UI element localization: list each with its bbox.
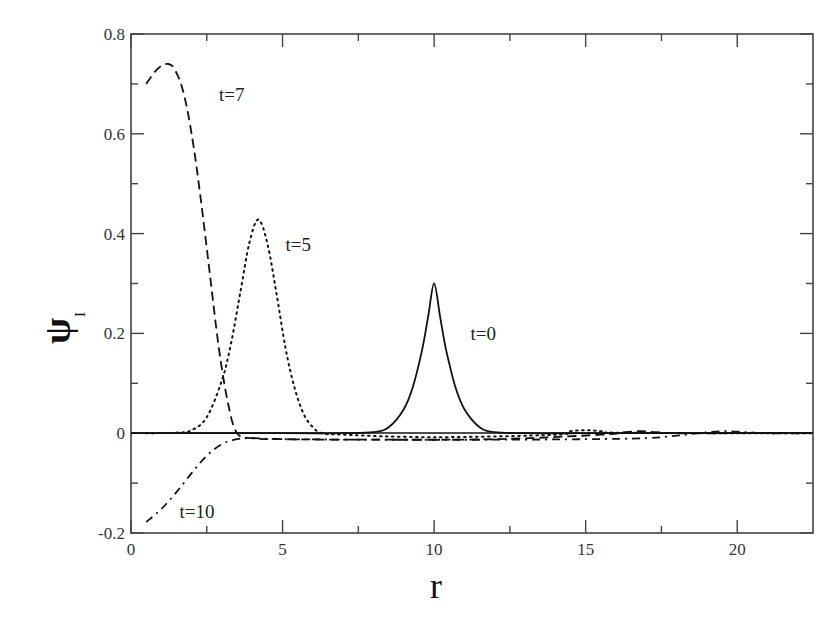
curve-label-t-10: t=10 — [179, 501, 214, 522]
axis-ticks — [131, 34, 813, 533]
axis-tick-labels: 05101520-0.200.20.40.60.8 — [98, 25, 746, 559]
y-tick-label: 0.6 — [104, 125, 125, 144]
curve-label-t-0: t=0 — [470, 323, 496, 344]
y-axis-title: ψ — [36, 318, 78, 344]
y-tick-label: 0.2 — [104, 324, 125, 343]
chart: 05101520-0.200.20.40.60.8 t=0t=5t=7t=10 … — [0, 0, 840, 628]
x-tick-label: 15 — [577, 540, 594, 559]
x-tick-label: 0 — [127, 540, 136, 559]
x-tick-label: 20 — [729, 540, 746, 559]
x-tick-label: 5 — [278, 540, 287, 559]
y-tick-label: 0.4 — [104, 225, 126, 244]
curve-label-t-5: t=5 — [286, 234, 312, 255]
curve-t-10 — [146, 431, 813, 522]
curve-t-7 — [146, 64, 813, 440]
y-tick-label: 0.8 — [104, 25, 125, 44]
y-axis-subscript: I — [72, 312, 88, 317]
plot-frame — [131, 34, 813, 533]
x-tick-label: 10 — [426, 540, 443, 559]
curve-label-t-7: t=7 — [219, 84, 245, 105]
data-curves — [131, 64, 813, 522]
y-axis-title-group: ψ I — [36, 312, 88, 344]
y-tick-label: 0 — [117, 424, 126, 443]
curve-labels: t=0t=5t=7t=10 — [179, 84, 495, 522]
y-tick-label: -0.2 — [98, 524, 125, 543]
curve-t-0 — [131, 284, 813, 434]
x-axis-title: r — [430, 566, 442, 606]
